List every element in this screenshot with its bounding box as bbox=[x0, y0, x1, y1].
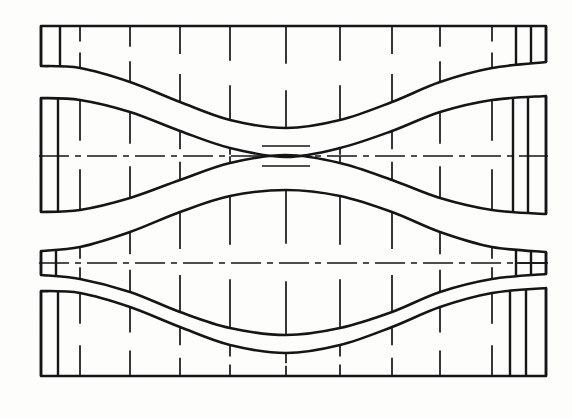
technical-drawing-canvas bbox=[0, 0, 572, 418]
band-4-bottom-strip bbox=[41, 288, 546, 376]
band-2-waisted-upper bbox=[39, 96, 548, 214]
band-1-top-strip-outline bbox=[41, 26, 546, 128]
bands-group bbox=[39, 26, 548, 376]
band-1-top-strip bbox=[41, 26, 546, 128]
band-4-bottom-strip-outline bbox=[41, 288, 546, 376]
band-2-waisted-upper-outline bbox=[41, 96, 546, 214]
band-3-lens-lower bbox=[39, 190, 548, 335]
drawing-svg bbox=[0, 0, 572, 418]
